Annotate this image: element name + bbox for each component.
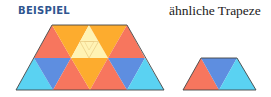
large-trapezoid <box>16 25 164 90</box>
similar-trapezoids-diagram <box>0 0 271 97</box>
small-trapezoid <box>183 58 256 90</box>
